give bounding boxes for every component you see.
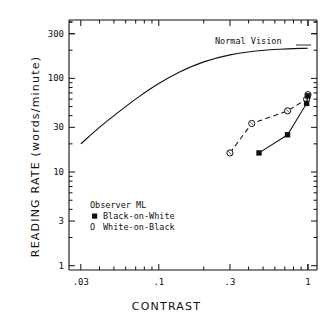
white-on-black-line <box>230 95 308 153</box>
y-tick-label: 300 <box>38 29 64 39</box>
black-on-white-line <box>259 96 308 153</box>
legend-label-white-on-black: White-on-Black <box>103 222 175 232</box>
legend-label-black-on-white: Black-on-White <box>103 211 175 221</box>
x-tick-label: .3 <box>210 277 250 287</box>
y-tick-label: 100 <box>38 73 64 83</box>
legend-header: Observer ML <box>90 200 146 210</box>
x-tick-label: .03 <box>61 277 101 287</box>
y-tick-label: 10 <box>38 167 64 177</box>
x-tick-label: .1 <box>139 277 179 287</box>
x-axis-ticks <box>81 20 308 270</box>
normal-vision-curve <box>81 48 308 144</box>
y-tick-label: 1 <box>38 261 64 271</box>
black-on-white-markers <box>256 93 310 155</box>
y-tick-label: 30 <box>38 122 64 132</box>
y-tick-label: 3 <box>38 216 64 226</box>
x-axis-title: CONTRAST <box>0 300 333 313</box>
plot-axes <box>69 20 317 270</box>
legend-filled-square-marker <box>92 214 97 219</box>
legend-glyph-white-on-black: O <box>90 222 95 232</box>
normal-vision-annotation: Normal Vision <box>215 36 282 46</box>
x-tick-label: 1 <box>288 277 328 287</box>
